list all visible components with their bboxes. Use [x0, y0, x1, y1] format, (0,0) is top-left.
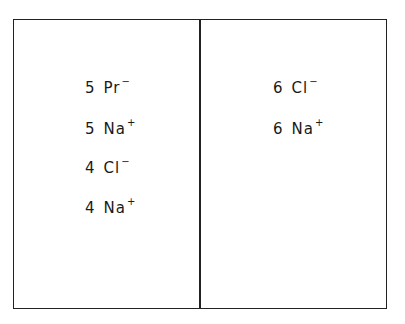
right-ion-1: 6Cl−: [273, 78, 319, 97]
ion-count: 4: [85, 199, 96, 217]
ion-symbol: Cl: [104, 159, 121, 177]
left-ion-4: 4Na+: [85, 198, 136, 217]
ion-count: 5: [85, 79, 96, 97]
ion-count: 4: [85, 159, 96, 177]
ion-symbol: Na: [104, 199, 126, 217]
ion-charge: −: [309, 76, 318, 87]
ion-count: 5: [85, 120, 96, 138]
ion-charge: −: [121, 156, 130, 167]
left-ion-1: 5Pr−: [85, 78, 131, 97]
ion-charge: +: [127, 196, 136, 207]
ion-symbol: Na: [104, 120, 126, 138]
membrane-diagram: 5Pr− 5Na+ 4Cl− 4Na+ 6Cl− 6Na+: [13, 19, 387, 309]
ion-symbol: Pr: [104, 79, 121, 97]
ion-symbol: Cl: [292, 79, 309, 97]
right-ion-2: 6Na+: [273, 119, 324, 138]
ion-count: 6: [273, 79, 284, 97]
ion-charge: +: [127, 117, 136, 128]
ion-symbol: Na: [292, 120, 314, 138]
ion-charge: −: [122, 76, 131, 87]
left-ion-3: 4Cl−: [85, 158, 131, 177]
ion-count: 6: [273, 120, 284, 138]
membrane-divider: [199, 20, 201, 308]
left-ion-2: 5Na+: [85, 119, 136, 138]
ion-charge: +: [315, 117, 324, 128]
